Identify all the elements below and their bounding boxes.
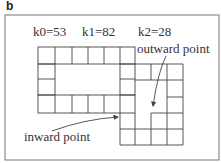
k1-label: k1=82 bbox=[82, 24, 115, 39]
right-ring-grid bbox=[120, 64, 183, 145]
k0-label: k0=53 bbox=[33, 24, 66, 39]
k2-label: k2=28 bbox=[138, 24, 171, 39]
outward-arrow bbox=[153, 56, 166, 106]
grid-diagram: k0=53 k1=82 k2=28 outward poi bbox=[0, 0, 221, 163]
inward-point-label: inward point bbox=[24, 129, 90, 144]
outward-point-label: outward point bbox=[137, 41, 210, 56]
left-ring-grid bbox=[38, 47, 135, 113]
